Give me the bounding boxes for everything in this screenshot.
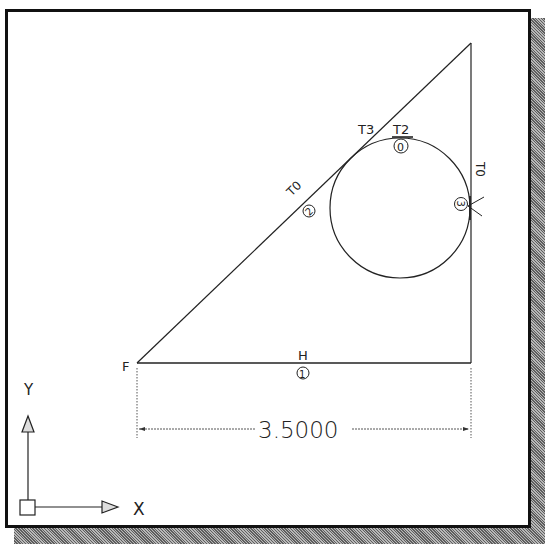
- arrowhead-right: [463, 427, 469, 431]
- constraint-id-1: 1: [299, 369, 305, 380]
- hypotenuse-line[interactable]: [137, 43, 471, 363]
- constraint-id-0: 0: [397, 141, 404, 154]
- ucs-x-arrow-icon: [102, 501, 118, 513]
- constraint-marker-1[interactable]: 1: [297, 367, 309, 380]
- ucs-y-label: Y: [23, 381, 34, 399]
- sketch-canvas[interactable]: F H 1 T0 2 T3 T2 0 T0 3: [0, 0, 545, 544]
- ucs-y-arrow-icon: [22, 416, 34, 432]
- constraint-marker-0[interactable]: 0: [394, 139, 408, 154]
- dimension-value[interactable]: 3.5000: [258, 417, 338, 443]
- tangent-label-t2: T2: [392, 122, 409, 137]
- vertex-label-f: F: [122, 359, 129, 374]
- tangent-circle[interactable]: [330, 138, 470, 278]
- tangent-label-t3: T3: [357, 122, 374, 137]
- ucs-origin-box: [20, 500, 35, 515]
- triangle[interactable]: [137, 43, 471, 363]
- vertical-tangent-label: T0: [473, 161, 487, 177]
- constraint-id-3: 3: [455, 201, 466, 207]
- hypotenuse-tangent-label: T0: [283, 178, 304, 199]
- tangent-point-marker: [468, 196, 484, 220]
- ucs-icon: [20, 416, 118, 515]
- constraint-marker-3[interactable]: 3: [455, 198, 468, 211]
- arrowhead-left: [139, 427, 145, 431]
- horizontal-constraint-label: H: [298, 348, 308, 363]
- constraint-marker-2[interactable]: 2: [303, 205, 315, 218]
- ucs-x-label: X: [133, 499, 145, 519]
